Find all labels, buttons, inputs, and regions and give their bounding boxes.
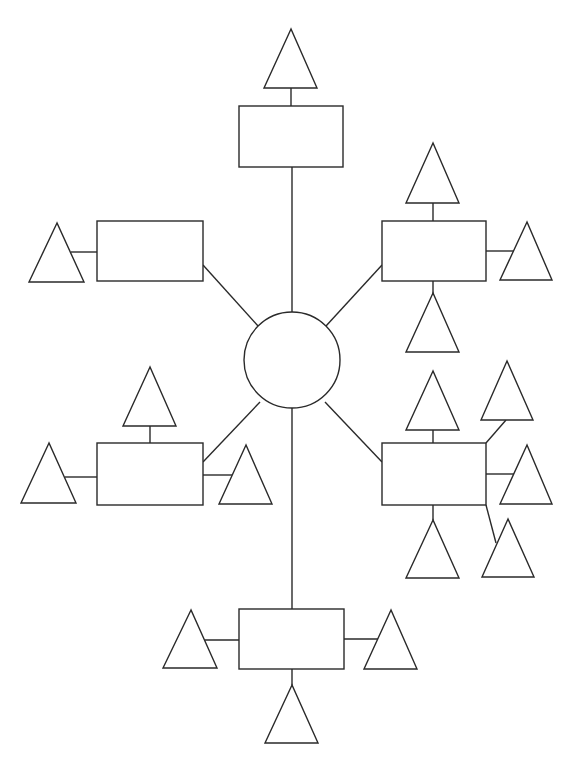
leaf-triangle <box>264 29 317 88</box>
spoke-upper-left <box>203 265 258 326</box>
branch-top <box>239 29 343 167</box>
branch-bottom <box>163 609 417 743</box>
leaf-triangle <box>406 143 459 203</box>
leaf-triangle <box>265 685 318 743</box>
leaf-triangle <box>406 520 459 578</box>
leaf-triangle <box>406 293 459 352</box>
mind-map-diagram <box>0 0 577 766</box>
leaf-triangle <box>21 443 76 503</box>
leaf-triangle <box>482 519 534 577</box>
branch-upper-right <box>382 143 552 352</box>
branch-lower-right <box>382 361 552 578</box>
branch-box <box>382 443 486 505</box>
branch-box <box>239 609 344 669</box>
branch-box <box>239 106 343 167</box>
branch-box <box>97 443 203 505</box>
spoke-upper-right <box>326 265 382 326</box>
connector <box>486 420 506 443</box>
branch-upper-left <box>29 221 203 282</box>
leaf-triangle <box>163 610 217 668</box>
branch-lower-left <box>21 367 272 505</box>
spoke-lower-left <box>203 402 260 462</box>
spoke-lower-right <box>325 402 382 462</box>
leaf-triangle <box>481 361 533 420</box>
connector <box>486 505 496 543</box>
leaf-triangle <box>123 367 176 426</box>
branch-box <box>97 221 203 281</box>
center-node <box>244 312 340 408</box>
branch-box <box>382 221 486 281</box>
leaf-triangle <box>406 371 459 430</box>
